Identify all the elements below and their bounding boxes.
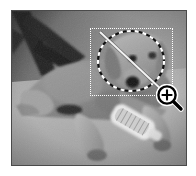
screenshot-root <box>0 0 196 176</box>
zoom-in-cursor[interactable] <box>156 84 186 114</box>
magnifier-plus-icon[interactable] <box>156 84 186 114</box>
